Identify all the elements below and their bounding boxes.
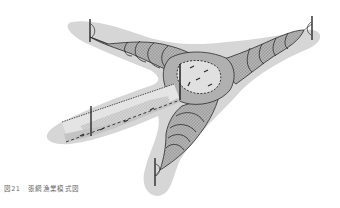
figure-label: 図21 [4, 185, 20, 193]
figure-caption: 図21張網漁業模式図 [4, 183, 79, 193]
set-net-illustration [0, 0, 340, 208]
figure-title: 張網漁業模式図 [28, 185, 79, 193]
